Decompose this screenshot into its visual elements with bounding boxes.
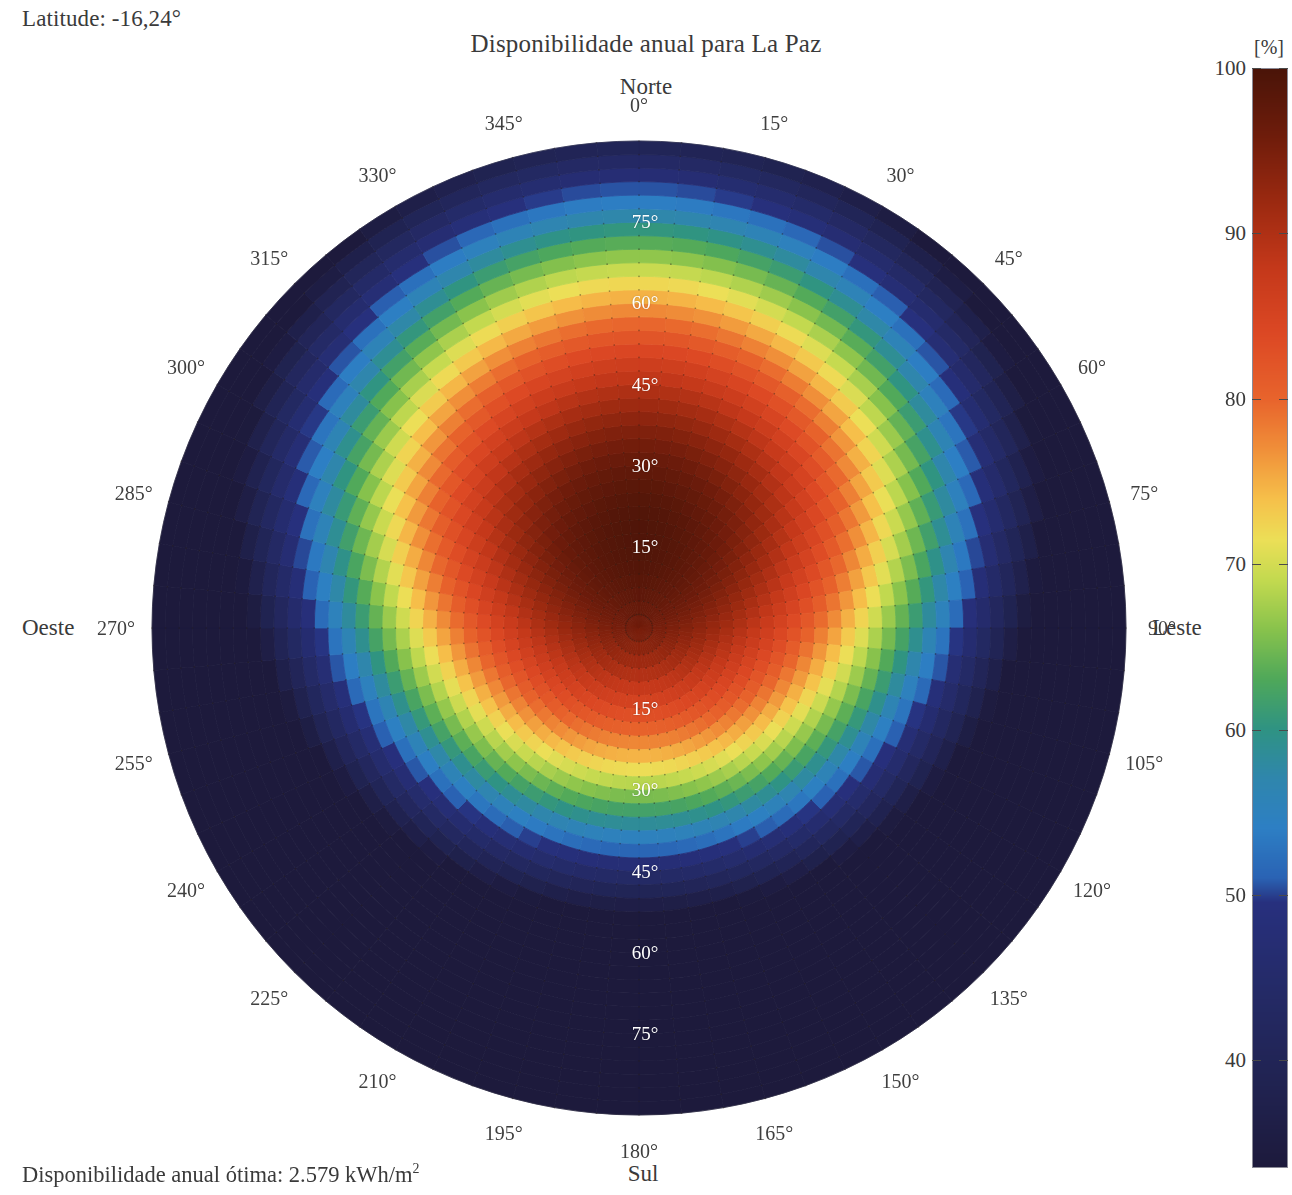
tilt-label-south-30: 30° <box>632 779 659 801</box>
tilt-label-south-45: 45° <box>632 861 659 883</box>
colorbar-tick-label-90: 90 <box>1225 221 1246 246</box>
tilt-label-north-75: 75° <box>632 211 659 233</box>
tilt-label-south-75: 75° <box>632 1023 659 1045</box>
colorbar: [%] 100908070605040 <box>1196 0 1292 1195</box>
azimuth-label-105: 105° <box>1125 752 1163 775</box>
azimuth-label-195: 195° <box>485 1122 523 1145</box>
colorbar-tick-mark-left-90 <box>1252 233 1261 234</box>
colorbar-tick-mark-right-70 <box>1279 564 1288 565</box>
azimuth-label-225: 225° <box>250 986 288 1009</box>
tilt-label-south-15: 15° <box>632 698 659 720</box>
azimuth-label-45: 45° <box>995 247 1023 270</box>
azimuth-label-315: 315° <box>250 247 288 270</box>
tilt-label-south-60: 60° <box>632 942 659 964</box>
colorbar-tick-mark-left-50 <box>1252 895 1261 896</box>
colorbar-tick-mark-left-70 <box>1252 564 1261 565</box>
azimuth-label-255: 255° <box>115 752 153 775</box>
tilt-label-north-30: 30° <box>632 455 659 477</box>
azimuth-label-15: 15° <box>760 111 788 134</box>
azimuth-label-330: 330° <box>359 164 397 187</box>
footer-note: Disponibilidade anual ótima: 2.579 kWh/m… <box>22 1161 420 1188</box>
colorbar-unit-label: [%] <box>1254 36 1284 59</box>
azimuth-label-300: 300° <box>167 355 205 378</box>
azimuth-label-30: 30° <box>887 164 915 187</box>
colorbar-tick-label-80: 80 <box>1225 386 1246 411</box>
colorbar-tick-mark-right-100 <box>1279 68 1288 69</box>
footer-note-text: Disponibilidade anual ótima: 2.579 kWh/m <box>22 1161 413 1186</box>
azimuth-label-120: 120° <box>1073 878 1111 901</box>
tilt-label-north-15: 15° <box>632 536 659 558</box>
footer-note-exponent: 2 <box>413 1161 420 1176</box>
colorbar-tick-label-100: 100 <box>1215 56 1247 81</box>
tilt-label-north-45: 45° <box>632 374 659 396</box>
colorbar-tick-mark-right-50 <box>1279 895 1288 896</box>
azimuth-label-75: 75° <box>1130 481 1158 504</box>
azimuth-label-285: 285° <box>115 481 153 504</box>
colorbar-tick-mark-right-80 <box>1279 399 1288 400</box>
colorbar-tick-label-50: 50 <box>1225 883 1246 908</box>
azimuth-label-270: 270° <box>97 617 135 640</box>
azimuth-label-240: 240° <box>167 878 205 901</box>
azimuth-label-90: 90° <box>1148 617 1176 640</box>
colorbar-tick-mark-left-60 <box>1252 730 1261 731</box>
azimuth-label-180: 180° <box>620 1140 658 1163</box>
azimuth-label-345: 345° <box>485 111 523 134</box>
polar-plot: 0°15°30°45°60°75°90°105°120°135°150°165°… <box>0 0 1160 1195</box>
colorbar-tick-mark-left-80 <box>1252 399 1261 400</box>
azimuth-label-0: 0° <box>630 94 648 117</box>
azimuth-label-210: 210° <box>359 1069 397 1092</box>
azimuth-label-60: 60° <box>1078 355 1106 378</box>
colorbar-tick-label-60: 60 <box>1225 717 1246 742</box>
colorbar-tick-mark-right-60 <box>1279 730 1288 731</box>
colorbar-tick-mark-right-40 <box>1279 1060 1288 1061</box>
colorbar-tick-label-70: 70 <box>1225 552 1246 577</box>
polar-heatmap-canvas <box>0 0 1160 1195</box>
colorbar-tick-mark-left-40 <box>1252 1060 1261 1061</box>
figure-root: Latitude: -16,24° Disponibilidade anual … <box>0 0 1292 1195</box>
azimuth-label-165: 165° <box>755 1122 793 1145</box>
tilt-label-north-60: 60° <box>632 292 659 314</box>
azimuth-label-150: 150° <box>882 1069 920 1092</box>
azimuth-label-135: 135° <box>990 986 1028 1009</box>
colorbar-tick-mark-right-90 <box>1279 233 1288 234</box>
colorbar-tick-label-40: 40 <box>1225 1048 1246 1073</box>
colorbar-tick-mark-left-100 <box>1252 68 1261 69</box>
